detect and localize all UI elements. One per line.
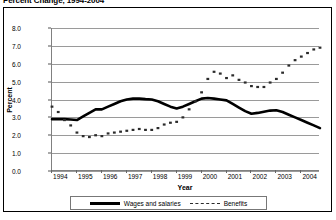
chart-title: Percent Change, 1994-2004 (3, 0, 104, 5)
x-tick-label: 1996 (103, 173, 117, 180)
data-point (256, 86, 259, 88)
data-point (213, 71, 216, 73)
data-point (275, 78, 278, 80)
legend-label: Wages and salaries (124, 200, 181, 207)
data-point (125, 130, 128, 132)
x-tick-mark (51, 170, 52, 173)
x-tick-label: 1999 (178, 173, 192, 180)
x-tick-mark (176, 170, 177, 173)
x-tick-label: 1994 (53, 173, 67, 180)
plot-area (51, 28, 319, 171)
x-axis-title: Year (51, 184, 319, 191)
legend-label: Benefits (224, 200, 248, 207)
data-point (219, 72, 222, 74)
data-point (144, 129, 147, 131)
data-point (100, 135, 103, 137)
gridline (52, 171, 319, 172)
data-point (119, 131, 122, 133)
y-tick-label: 0.0 (12, 168, 21, 175)
data-point (57, 111, 60, 113)
data-point (132, 129, 135, 131)
data-point (300, 56, 303, 58)
y-tick-label: 5.0 (12, 78, 21, 85)
data-point (312, 48, 315, 50)
data-point (188, 108, 191, 110)
data-point (94, 134, 97, 136)
x-tick-mark (101, 170, 102, 173)
legend-swatch-solid (90, 202, 120, 205)
legend-entry: Wages and salaries (90, 200, 181, 207)
x-tick-label: 1998 (153, 173, 167, 180)
x-tick-mark (201, 170, 202, 173)
y-tick-label: 3.0 (12, 114, 21, 121)
x-tick-label: 2003 (277, 173, 291, 180)
x-tick-mark (151, 170, 152, 173)
data-point (175, 121, 178, 123)
data-point (238, 79, 241, 81)
x-tick-label: 2000 (203, 173, 217, 180)
data-point (281, 72, 284, 74)
data-point (113, 131, 116, 133)
x-tick-label: 2001 (228, 173, 242, 180)
x-tick-mark (226, 170, 227, 173)
data-point (76, 131, 79, 133)
data-point (51, 106, 54, 108)
y-tick-label: 1.0 (12, 150, 21, 157)
data-point (157, 127, 160, 129)
x-tick-label: 2004 (302, 173, 316, 180)
chart-legend: Wages and salariesBenefits (70, 196, 267, 210)
data-point (150, 129, 153, 131)
data-point (163, 123, 166, 125)
series-line (52, 98, 320, 128)
data-point (263, 86, 266, 88)
x-tick-label: 2002 (253, 173, 267, 180)
data-point (250, 85, 253, 87)
y-tick-label: 6.0 (12, 60, 21, 67)
y-tick-label: 2.0 (12, 132, 21, 139)
data-point (306, 52, 309, 54)
data-point (319, 47, 322, 49)
chart-figure-frame: 0.01.02.03.04.05.06.07.08.0 Percent 1994… (3, 7, 332, 212)
series-layer (52, 28, 320, 171)
data-point (82, 135, 85, 137)
data-point (138, 128, 141, 130)
legend-entry: Benefits (190, 200, 248, 207)
y-tick-label: 4.0 (12, 96, 21, 103)
x-tick-mark (250, 170, 251, 173)
data-point (107, 132, 110, 134)
data-point (206, 78, 209, 80)
x-tick-mark (126, 170, 127, 173)
x-tick-mark (300, 170, 301, 173)
data-point (287, 64, 290, 66)
x-tick-mark (76, 170, 77, 173)
data-point (231, 74, 234, 76)
data-point (269, 81, 272, 83)
y-tick-label: 7.0 (12, 42, 21, 49)
data-point (200, 91, 203, 93)
data-point (294, 59, 297, 61)
x-tick-mark (275, 170, 276, 173)
legend-swatch-dashed (190, 203, 220, 204)
data-point (194, 100, 197, 102)
data-point (63, 119, 66, 121)
data-point (244, 81, 247, 83)
x-tick-label: 1995 (78, 173, 92, 180)
data-point (88, 136, 91, 138)
y-axis-title: Percent (6, 87, 13, 113)
data-point (181, 116, 184, 118)
data-point (169, 122, 172, 124)
data-point (225, 77, 228, 79)
y-tick-label: 8.0 (12, 25, 21, 32)
data-point (69, 124, 72, 126)
x-tick-label: 1997 (128, 173, 142, 180)
